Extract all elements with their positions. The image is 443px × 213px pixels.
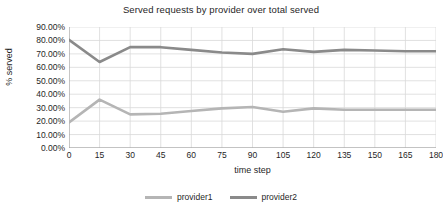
x-tick-label: 120: [307, 150, 321, 160]
x-tick-label: 165: [398, 150, 412, 160]
y-tick-label: 90.00%: [36, 22, 65, 32]
y-tick-label: 80.00%: [36, 35, 65, 45]
y-tick-label: 10.00%: [36, 130, 65, 140]
legend-swatch-provider1: [145, 196, 172, 199]
series-line-provider2: [69, 40, 436, 62]
y-tick-label: 40.00%: [36, 89, 65, 99]
legend-swatch-provider2: [230, 196, 257, 199]
x-tick-label: 15: [95, 150, 104, 160]
legend-label-provider2: provider2: [262, 192, 297, 202]
y-axis-tick-labels: 0.00%10.00%20.00%30.00%40.00%50.00%60.00…: [0, 27, 65, 148]
x-tick-label: 30: [125, 150, 134, 160]
legend-item-provider1[interactable]: provider1: [145, 192, 212, 202]
y-tick-label: 0.00%: [41, 143, 65, 153]
y-tick-label: 30.00%: [36, 103, 65, 113]
x-tick-label: 75: [217, 150, 226, 160]
x-tick-label: 0: [67, 150, 72, 160]
x-tick-label: 45: [156, 150, 165, 160]
x-tick-label: 135: [337, 150, 351, 160]
y-tick-label: 50.00%: [36, 76, 65, 86]
chart-legend: provider1provider2: [0, 192, 442, 202]
plot-area: [69, 27, 436, 148]
data-series-lines: [69, 27, 436, 148]
y-tick-label: 70.00%: [36, 49, 65, 59]
chart-title: Served requests by provider over total s…: [0, 4, 442, 15]
x-tick-label: 180: [429, 150, 443, 160]
x-tick-label: 150: [368, 150, 382, 160]
x-axis-title: time step: [69, 165, 436, 175]
series-line-provider1: [69, 100, 436, 123]
y-tick-label: 20.00%: [36, 116, 65, 126]
legend-item-provider2[interactable]: provider2: [230, 192, 297, 202]
x-tick-label: 105: [276, 150, 290, 160]
y-tick-label: 60.00%: [36, 62, 65, 72]
x-axis-tick-labels: 0153045607590105120135150165180: [69, 150, 436, 164]
legend-label-provider1: provider1: [177, 192, 212, 202]
x-tick-label: 90: [248, 150, 257, 160]
x-tick-label: 60: [187, 150, 196, 160]
